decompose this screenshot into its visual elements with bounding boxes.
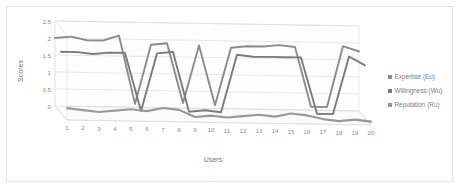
x-tick-label: 4 [113,125,117,132]
x-tick-label: 11 [224,127,231,134]
y-tick-label: 0 [48,103,52,110]
x-tick-label: 3 [97,125,101,132]
x-tick-label: 7 [161,126,165,133]
x-tick-label: 16 [304,128,311,135]
three-d-line-chart: 0 0.5 1 1.5 2 2.5 Scores 123456789101112… [7,7,452,181]
chart-legend: Expertise (Eu)Willingness (Wu)Reputation… [388,73,442,109]
y-tick-label: 1 [48,69,52,76]
x-tick-label: 20 [368,129,375,136]
x-tick-label: 13 [256,127,263,134]
x-tick-label: 17 [320,128,327,135]
y-tick-label: 2 [48,35,52,42]
legend-square-marker [388,103,392,107]
left-wall [55,21,67,120]
y-axis-ticks: 0 0.5 1 1.5 2 2.5 [42,18,51,110]
legend-square-marker [388,75,392,79]
legend-item-label[interactable]: Expertise (Eu) [395,73,436,81]
y-tick-label: 0.5 [42,86,51,93]
x-tick-label: 1 [65,124,69,131]
x-tick-label: 2 [81,124,85,131]
y-tick-label: 1.5 [42,52,51,59]
x-tick-label: 15 [288,128,295,135]
x-tick-label: 12 [240,127,247,134]
chart-container: 0 0.5 1 1.5 2 2.5 Scores 123456789101112… [6,6,453,182]
x-tick-label: 18 [336,129,343,136]
x-tick-label: 8 [177,126,181,133]
x-axis-title: Users [204,156,223,163]
x-axis-ticks: 1234567891011121314151617181920 [65,124,375,136]
legend-item-label[interactable]: Reputation (Ru) [395,101,440,109]
x-tick-label: 6 [145,125,149,132]
y-axis-title: Scores [17,60,24,82]
x-tick-label: 19 [352,129,359,136]
y-tick-label: 2.5 [42,18,51,25]
x-tick-label: 14 [272,127,279,134]
legend-item-label[interactable]: Willingness (Wu) [395,87,443,95]
x-tick-label: 5 [129,125,133,132]
x-tick-label: 9 [193,126,197,133]
back-wall [55,21,359,111]
x-tick-label: 10 [208,126,215,133]
legend-square-marker [388,89,392,93]
